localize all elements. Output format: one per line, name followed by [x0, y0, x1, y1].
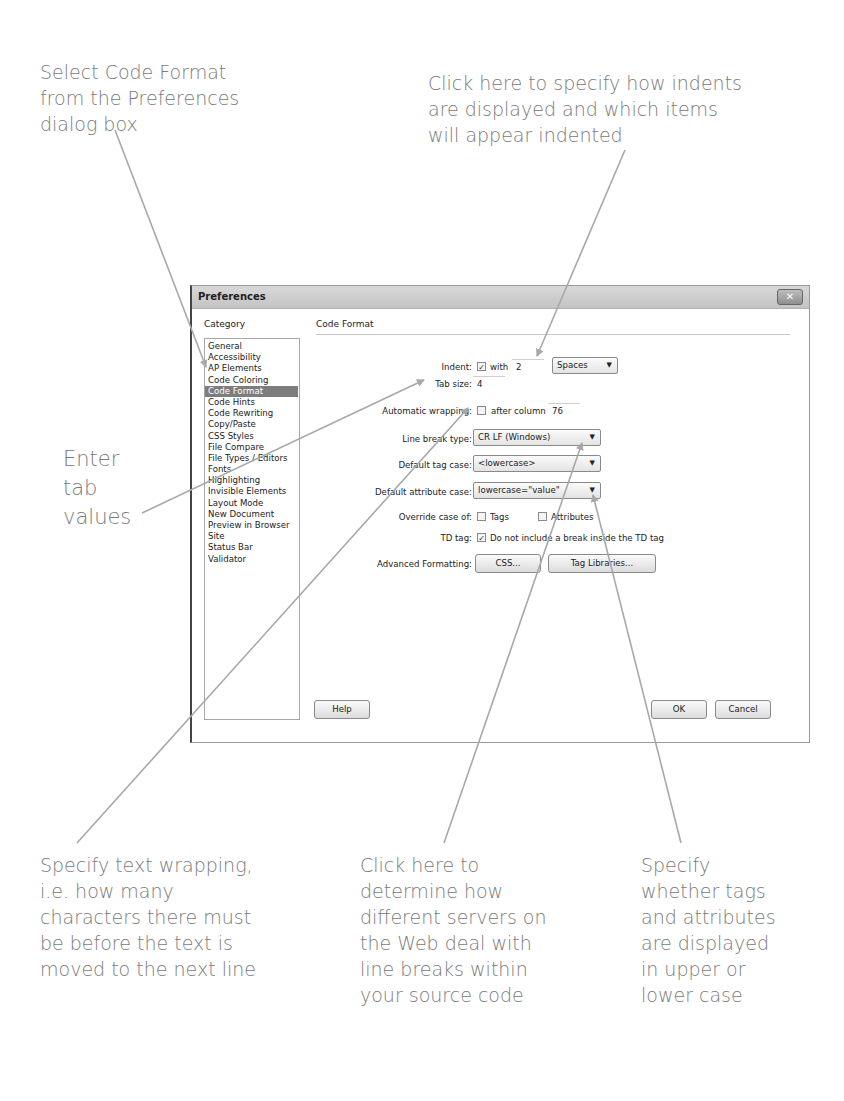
- tag-case-value: <lowercase>: [478, 458, 535, 468]
- chevron-down-icon: ▼: [607, 358, 612, 373]
- td-tag-label: TD tag:: [440, 533, 472, 543]
- panel-header: Code Format: [316, 319, 374, 329]
- dialog-title: Preferences: [198, 291, 266, 302]
- wrapping-label: Automatic wrapping:: [382, 406, 472, 416]
- title-bar[interactable]: Preferences ✕: [192, 286, 809, 309]
- annotation-tab-values: Enter tab values: [63, 445, 131, 532]
- wrapping-after-label: after column: [491, 406, 546, 416]
- wrapping-column-input[interactable]: 76: [548, 403, 580, 417]
- line-break-value: CR LF (Windows): [478, 432, 550, 442]
- override-label: Override case of:: [399, 512, 472, 522]
- tag-case-label: Default tag case:: [398, 460, 472, 470]
- annotation-select-code-format: Select Code Format from the Preferences …: [40, 59, 239, 137]
- td-tag-text: Do not include a break inside the TD tag: [490, 533, 664, 543]
- tag-case-select[interactable]: <lowercase> ▼: [473, 455, 601, 472]
- indent-with-label: with: [490, 362, 508, 372]
- tab-size-input[interactable]: 4: [473, 376, 505, 390]
- category-item-validator[interactable]: Validator: [205, 554, 299, 565]
- indent-size-input[interactable]: 2: [512, 359, 544, 373]
- line-break-label: Line break type:: [402, 434, 472, 444]
- category-item-site[interactable]: Site: [205, 531, 299, 542]
- preferences-dialog: Preferences ✕ Category Code Format Gener…: [190, 285, 810, 743]
- category-item-preview-in-browser[interactable]: Preview in Browser: [205, 520, 299, 531]
- category-item-status-bar[interactable]: Status Bar: [205, 542, 299, 553]
- ok-button[interactable]: OK: [651, 700, 707, 719]
- category-item-accessibility[interactable]: Accessibility: [205, 352, 299, 363]
- chevron-down-icon: ▼: [590, 430, 595, 445]
- category-list[interactable]: General Accessibility AP Elements Code C…: [204, 338, 300, 720]
- indent-label: Indent:: [442, 362, 472, 372]
- chevron-down-icon: ▼: [590, 456, 595, 471]
- indent-unit-value: Spaces: [557, 360, 588, 370]
- indent-checkbox[interactable]: ✓: [477, 362, 486, 371]
- close-icon: ✕: [786, 291, 794, 302]
- category-item-ap-elements[interactable]: AP Elements: [205, 363, 299, 374]
- category-item-general[interactable]: General: [205, 341, 299, 352]
- indent-unit-select[interactable]: Spaces ▼: [552, 357, 618, 374]
- category-item-new-document[interactable]: New Document: [205, 509, 299, 520]
- line-break-select[interactable]: CR LF (Windows) ▼: [473, 429, 601, 446]
- category-item-file-types-editors[interactable]: File Types / Editors: [205, 453, 299, 464]
- help-button[interactable]: Help: [314, 700, 370, 719]
- override-tags-checkbox[interactable]: [477, 512, 486, 521]
- attr-case-select[interactable]: lowercase="value" ▼: [473, 482, 601, 499]
- annotation-indents: Click here to specify how indents are di…: [428, 70, 742, 148]
- category-item-layout-mode[interactable]: Layout Mode: [205, 498, 299, 509]
- chevron-down-icon: ▼: [590, 483, 595, 498]
- category-item-copy-paste[interactable]: Copy/Paste: [205, 419, 299, 430]
- annotation-line-breaks: Click here to determine how different se…: [360, 852, 546, 1008]
- annotation-case: Specify whether tags and attributes are …: [641, 852, 776, 1008]
- category-item-code-rewriting[interactable]: Code Rewriting: [205, 408, 299, 419]
- close-button[interactable]: ✕: [777, 289, 803, 305]
- category-item-code-coloring[interactable]: Code Coloring: [205, 375, 299, 386]
- category-header: Category: [204, 319, 245, 329]
- override-tags-label: Tags: [490, 512, 509, 522]
- td-tag-checkbox[interactable]: ✓: [477, 533, 486, 542]
- attr-case-value: lowercase="value": [478, 485, 560, 495]
- attr-case-label: Default attribute case:: [375, 487, 472, 497]
- category-item-fonts[interactable]: Fonts: [205, 464, 299, 475]
- category-item-code-hints[interactable]: Code Hints: [205, 397, 299, 408]
- tab-size-label: Tab size:: [435, 379, 472, 389]
- css-button[interactable]: CSS...: [475, 554, 541, 573]
- category-item-css-styles[interactable]: CSS Styles: [205, 431, 299, 442]
- annotation-text-wrapping: Specify text wrapping, i.e. how many cha…: [40, 852, 256, 982]
- advanced-formatting-label: Advanced Formatting:: [377, 559, 472, 569]
- category-item-highlighting[interactable]: Highlighting: [205, 475, 299, 486]
- wrapping-checkbox[interactable]: [477, 406, 486, 415]
- header-divider: [316, 334, 790, 335]
- override-attributes-label: Attributes: [551, 512, 593, 522]
- override-attributes-checkbox[interactable]: [538, 512, 547, 521]
- tag-libraries-button[interactable]: Tag Libraries...: [548, 554, 656, 573]
- category-item-file-compare[interactable]: File Compare: [205, 442, 299, 453]
- category-item-invisible-elements[interactable]: Invisible Elements: [205, 486, 299, 497]
- category-item-code-format[interactable]: Code Format: [205, 386, 298, 397]
- cancel-button[interactable]: Cancel: [715, 700, 771, 719]
